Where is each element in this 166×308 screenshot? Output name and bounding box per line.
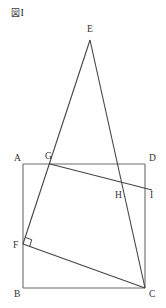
vertex-label-f: F xyxy=(13,240,18,250)
geometry-diagram: ABCDEFGHI xyxy=(0,0,166,308)
vertex-label-e: E xyxy=(87,24,93,34)
vertex-label-b: B xyxy=(14,289,20,299)
vertex-label-a: A xyxy=(14,153,21,163)
segment-ef xyxy=(23,40,90,244)
vertex-label-g: G xyxy=(45,151,52,161)
segment-gi xyxy=(50,164,152,190)
segment-fc xyxy=(23,244,145,288)
square-abcd xyxy=(23,164,145,288)
vertex-label-i: I xyxy=(150,190,153,200)
vertex-label-c: C xyxy=(149,289,155,299)
vertex-label-d: D xyxy=(149,153,156,163)
figure-container: 図I ABCDEFGHI xyxy=(0,0,166,308)
vertex-label-h: H xyxy=(115,190,122,200)
vertex-labels: ABCDEFGHI xyxy=(13,24,156,299)
